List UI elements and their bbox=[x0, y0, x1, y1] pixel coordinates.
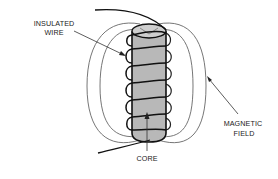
pointer-insulated-wire bbox=[74, 31, 124, 55]
label-insulated-wire-line1: INSULATED bbox=[34, 19, 75, 28]
label-core: CORE bbox=[136, 154, 157, 163]
label-insulated-wire-line2: WIRE bbox=[44, 28, 63, 37]
wire-lead-bottom bbox=[98, 140, 150, 153]
label-magnetic-field-line1: MAGNETIC bbox=[224, 119, 263, 128]
arrowhead-insulated-wire bbox=[119, 51, 126, 56]
pointer-magnetic-field bbox=[209, 79, 238, 114]
label-magnetic-field-line2: FIELD bbox=[234, 129, 255, 138]
electromagnet-diagram: INSULATED WIRE MAGNETIC FIELD CORE bbox=[0, 0, 278, 179]
